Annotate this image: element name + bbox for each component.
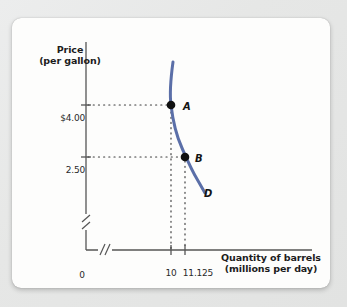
y-axis-title-line2: (per gallon) [32, 55, 108, 66]
demand-curve-label: D [204, 188, 212, 200]
x-axis-title-line1: Quantity of barrels [218, 252, 324, 263]
y-axis-title: Price (per gallon) [32, 44, 108, 66]
point-b-label: B [195, 153, 203, 165]
figure-page: Price (per gallon) Quantity of barrels (… [0, 0, 347, 307]
y-tick-label-250: 2.50 [41, 165, 85, 176]
demand-curve [170, 62, 205, 193]
x-axis-break-icon [98, 244, 112, 256]
point-a-label: A [183, 101, 191, 113]
x-axis-title-line2: (millions per day) [218, 263, 324, 274]
data-point-a [167, 101, 176, 110]
y-tick-label-400: $4.00 [41, 113, 85, 124]
figure-card: Price (per gallon) Quantity of barrels (… [12, 18, 330, 288]
x-tick-label-0: 0 [75, 270, 89, 281]
x-tick-label-11125: 11.125 [178, 268, 218, 279]
data-point-b [181, 153, 190, 162]
y-axis-break-icon [82, 215, 90, 229]
x-axis-title: Quantity of barrels (millions per day) [218, 252, 324, 274]
y-axis-title-line1: Price [32, 44, 108, 55]
